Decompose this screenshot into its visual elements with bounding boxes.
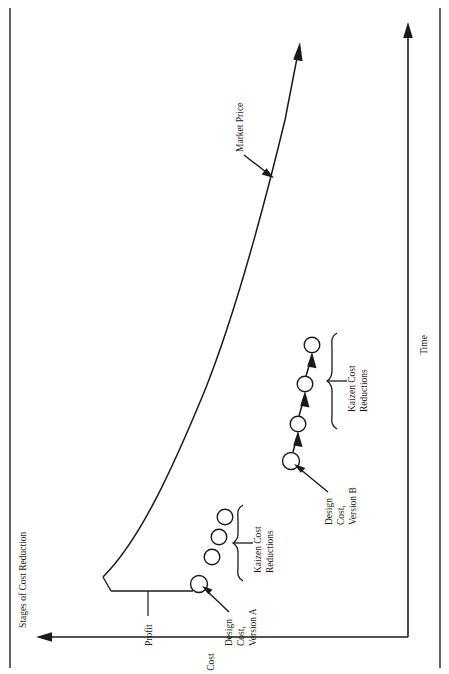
design-cost-b-leader-line (300, 469, 328, 492)
market-price-arrowhead (293, 42, 302, 61)
cost-axis-arrowhead (36, 632, 52, 642)
market-price-label: Market Price (235, 103, 245, 152)
kaizen-a-marker-1 (204, 549, 220, 565)
design-cost-b-label-line3: Version B (348, 487, 358, 525)
profit-label: Profit (144, 624, 154, 646)
page-title: Stages of Cost Reduction (18, 531, 28, 628)
design-cost-a-label-line1: Design (224, 619, 234, 646)
kaizen-a-marker-2 (211, 529, 227, 545)
design-cost-a-marker (191, 576, 208, 593)
figure-canvas: Stages of Cost Reduction Time Cost Marke… (0, 0, 449, 674)
kaizen-b-marker-2 (297, 376, 313, 392)
design-cost-b-label-line2: Cost, (336, 505, 346, 525)
cost-reduction-diagram: Stages of Cost Reduction Time Cost Marke… (0, 0, 449, 674)
design-cost-a-label-line3: Version A (248, 608, 258, 646)
profit-wedge-cap (103, 577, 111, 591)
market-price-leader-line (244, 155, 266, 172)
market-price-curve (103, 58, 297, 577)
time-axis-arrowhead (403, 22, 413, 38)
kaizen-a-label-line2: Reductions (265, 530, 275, 573)
time-axis-label: Time (419, 335, 429, 355)
kaizen-b-label-line1: Kaizen Cost (347, 365, 357, 412)
kaizen-b-connector-1-arrowhead (293, 431, 302, 447)
kaizen-b-connector-3-arrowhead (307, 352, 316, 368)
kaizen-a-marker-3 (217, 509, 233, 525)
kaizen-b-marker-3 (304, 337, 320, 353)
cost-axis-label: Cost (206, 653, 216, 671)
design-cost-b-label-line1: Design (324, 498, 334, 525)
design-cost-a-leader-line (207, 591, 229, 612)
kaizen-b-connector-2-arrowhead (300, 391, 309, 407)
design-cost-a-label-line2: Cost, (236, 626, 246, 646)
kaizen-b-marker-1 (290, 416, 306, 432)
kaizen-a-label-line1: Kaizen Cost (253, 526, 263, 573)
kaizen-b-label-line2: Reductions (359, 369, 369, 412)
